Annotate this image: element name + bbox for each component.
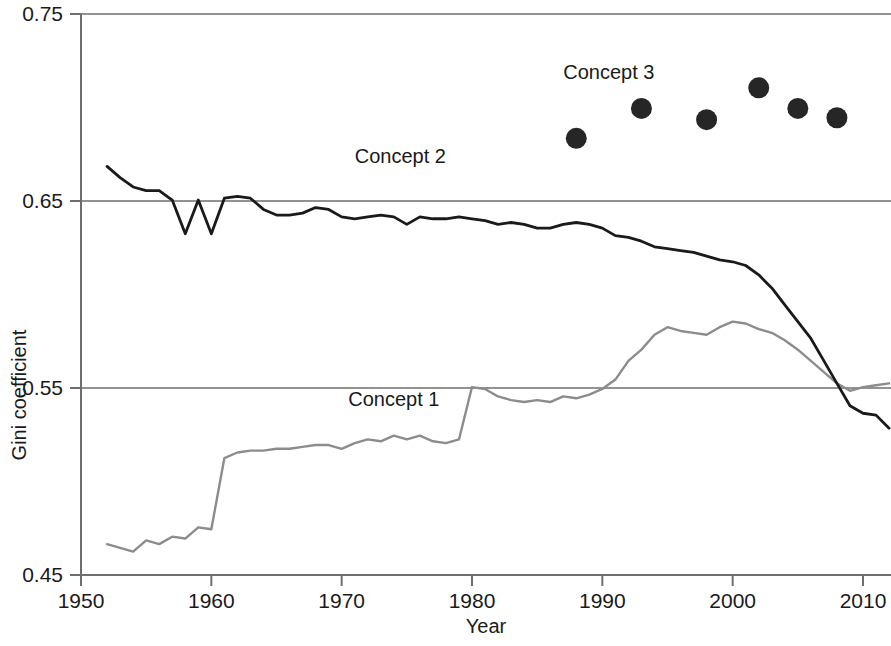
gini-coefficient-chart: 0.450.550.650.75 19501960197019801990200… bbox=[0, 0, 891, 646]
x-tick-label: 2000 bbox=[709, 589, 756, 612]
y-tick-label: 0.45 bbox=[22, 563, 63, 586]
y-tick-label: 0.75 bbox=[22, 2, 63, 25]
data-point-marker bbox=[826, 107, 847, 128]
x-axis bbox=[81, 575, 891, 586]
y-tick-marks bbox=[70, 14, 81, 575]
series-label-concept-3: Concept 3 bbox=[563, 61, 654, 83]
x-tick-label: 1980 bbox=[449, 589, 496, 612]
data-point-marker bbox=[631, 98, 652, 119]
y-axis-title: Gini coefficient bbox=[8, 329, 30, 460]
data-point-marker bbox=[566, 128, 587, 149]
x-tick-labels: 1950196019701980199020002010 bbox=[58, 589, 887, 612]
series-layer bbox=[107, 77, 889, 551]
chart-svg: 0.450.550.650.75 19501960197019801990200… bbox=[0, 0, 891, 646]
data-point-marker bbox=[787, 98, 808, 119]
series-label-concept-2: Concept 2 bbox=[355, 145, 446, 167]
y-axis bbox=[70, 14, 81, 575]
series-annotations: Concept 1Concept 2Concept 3 bbox=[348, 61, 654, 410]
x-tick-marks bbox=[81, 575, 863, 586]
x-axis-title: Year bbox=[466, 615, 507, 637]
series-line-concept-2 bbox=[107, 166, 889, 428]
series-label-concept-1: Concept 1 bbox=[348, 388, 439, 410]
x-tick-label: 1990 bbox=[579, 589, 626, 612]
x-tick-label: 2010 bbox=[840, 589, 887, 612]
data-point-marker bbox=[696, 109, 717, 130]
data-point-marker bbox=[748, 77, 769, 98]
x-tick-label: 1970 bbox=[318, 589, 365, 612]
x-tick-label: 1950 bbox=[58, 589, 105, 612]
series-line-concept-1 bbox=[107, 322, 889, 552]
y-tick-label: 0.65 bbox=[22, 189, 63, 212]
x-tick-label: 1960 bbox=[188, 589, 235, 612]
y-tick-labels: 0.450.550.650.75 bbox=[22, 2, 63, 586]
